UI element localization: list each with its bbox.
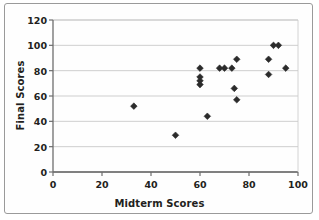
x-tick-label-20: 20 <box>95 179 108 190</box>
x-tick-label-80: 80 <box>242 179 255 190</box>
data-points <box>131 42 289 139</box>
data-point <box>197 81 204 88</box>
x-tick-label-100: 100 <box>288 179 308 190</box>
data-point <box>204 113 211 120</box>
x-tick-label-40: 40 <box>144 179 157 190</box>
x-tick-label-0: 0 <box>50 179 57 190</box>
y-tick-label-80: 80 <box>3 65 47 76</box>
x-tick-label-60: 60 <box>193 179 206 190</box>
y-tick-label-60: 60 <box>3 91 47 102</box>
data-point <box>275 42 282 49</box>
axis-ticks <box>49 20 298 176</box>
data-point <box>265 56 272 63</box>
data-point <box>131 103 138 110</box>
data-point <box>172 132 179 139</box>
data-point <box>233 97 240 104</box>
data-point <box>265 71 272 78</box>
y-tick-label-120: 120 <box>3 15 47 26</box>
y-tick-label-0: 0 <box>3 167 47 178</box>
data-point <box>231 85 238 92</box>
x-axis-title: Midterm Scores <box>0 198 319 209</box>
y-tick-label-20: 20 <box>3 141 47 152</box>
scatter-plot-canvas <box>0 0 319 220</box>
gridlines <box>53 20 298 172</box>
y-tick-label-40: 40 <box>3 116 47 127</box>
y-tick-label-100: 100 <box>3 40 47 51</box>
data-point <box>233 56 240 63</box>
